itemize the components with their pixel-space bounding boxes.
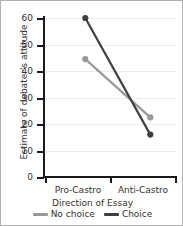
data-point-marker xyxy=(147,132,153,138)
legend-entry: Choice xyxy=(104,209,152,219)
data-point-marker xyxy=(82,15,88,21)
legend-entry: No choice xyxy=(33,209,95,219)
chart-figure: 0102030405060 Estimate of debater's atti… xyxy=(0,0,183,226)
legend-swatch-icon xyxy=(104,213,119,216)
legend-label: Choice xyxy=(122,209,152,219)
chart-legend: No choiceChoice xyxy=(1,209,183,219)
data-point-marker xyxy=(147,114,153,120)
series-no-choice xyxy=(82,56,153,121)
data-point-marker xyxy=(82,56,88,62)
chart-series-layer xyxy=(1,1,183,226)
series-line xyxy=(85,59,150,117)
series-choice xyxy=(82,15,153,138)
legend-swatch-icon xyxy=(33,213,48,216)
series-line xyxy=(85,18,150,135)
legend-label: No choice xyxy=(51,209,95,219)
